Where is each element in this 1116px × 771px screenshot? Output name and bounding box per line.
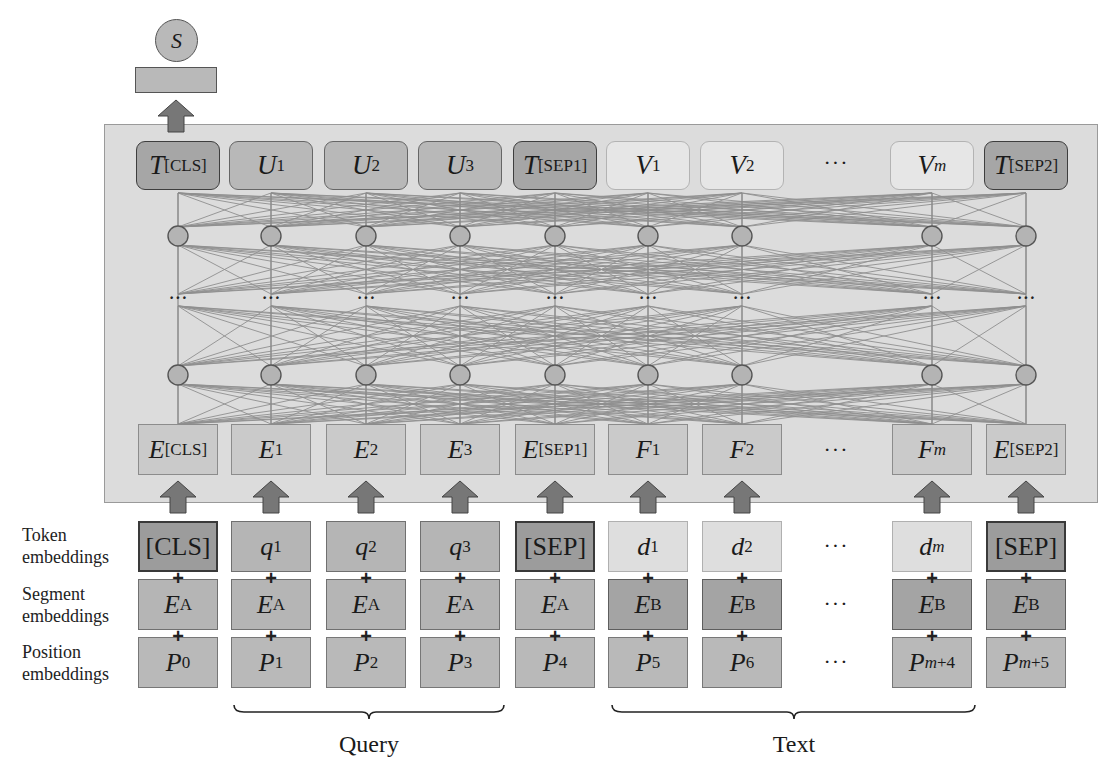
text-brace [612, 705, 975, 719]
text-label: Text [734, 731, 854, 758]
bert-diagram: S ··························· T[CLS]U1U2… [0, 0, 1116, 771]
query-label: Query [309, 731, 429, 758]
braces [0, 0, 1116, 771]
query-brace [234, 705, 504, 719]
